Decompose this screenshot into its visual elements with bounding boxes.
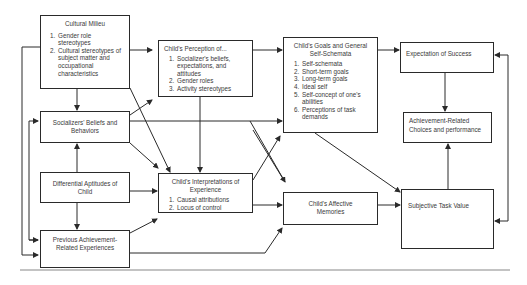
list-item: Short-term goals — [301, 68, 372, 76]
interpretations-list: Causal attributions Locus of control — [164, 196, 247, 211]
list-item: Self-concept of one's abilities — [301, 91, 372, 106]
cultural-milieu-list: Gender role stereotypes Cultural stereot… — [45, 32, 125, 78]
list-item: Activity stereotypes — [176, 85, 247, 93]
box-achievement-choices: Achievement-Related Choices and performa… — [403, 112, 492, 143]
box-previous-achievement: Previous Achievement-Related Experiences — [40, 230, 130, 268]
goals-title: Child's Goals and General Self-Schemata — [289, 42, 372, 57]
expectation-title: Expectation of Success — [406, 50, 488, 58]
box-differential-aptitudes: Differential Aptitudes of Child — [40, 172, 130, 203]
perception-title: Child's Perception of... — [164, 45, 247, 53]
differential-title: Differential Aptitudes of Child — [49, 180, 121, 195]
goals-list: Self-schemata Short-term goals Long-term… — [289, 60, 372, 121]
box-socializers-beliefs: Socializers' Beliefs and Behaviors — [40, 111, 130, 143]
box-childs-goals: Child's Goals and General Self-Schemata … — [283, 37, 378, 133]
box-cultural-milieu: Cultural Milieu Gender role stereotypes … — [40, 15, 130, 89]
box-affective-memories: Child's Affective Memories — [283, 192, 378, 225]
box-expectation-of-success: Expectation of Success — [400, 42, 494, 73]
list-item: Gender role stereotypes — [57, 32, 125, 47]
achievement-title: Achievement-Related Choices and performa… — [409, 116, 486, 134]
list-item: Cultural stereotypes of subject matter a… — [57, 47, 125, 77]
socializers-title: Socializers' Beliefs and Behaviors — [45, 119, 125, 134]
task-value-title: Subjective Task Value — [408, 202, 487, 210]
list-item: Self-schemata — [301, 60, 372, 68]
interpretations-title: Child's Interpretations of Experience — [164, 178, 247, 193]
list-item: Gender roles — [176, 77, 247, 85]
perception-list: Socializer's beliefs, expectations, and … — [164, 55, 247, 93]
list-item: Ideal self — [301, 83, 372, 91]
previous-title: Previous Achievement-Related Experiences — [49, 236, 121, 251]
list-item: Socializer's beliefs, expectations, and … — [176, 55, 247, 78]
list-item: Locus of control — [176, 204, 247, 212]
expectancy-value-model-diagram: Cultural Milieu Gender role stereotypes … — [0, 0, 527, 285]
list-item: Causal attributions — [176, 196, 247, 204]
cultural-milieu-title: Cultural Milieu — [45, 20, 125, 28]
box-childs-perception: Child's Perception of... Socializer's be… — [158, 40, 253, 97]
list-item: Long-term goals — [301, 75, 372, 83]
list-item: Perceptions of task demands — [301, 106, 372, 121]
affective-title: Child's Affective Memories — [294, 200, 367, 215]
box-childs-interpretations: Child's Interpretations of Experience Ca… — [158, 173, 253, 213]
box-subjective-task-value: Subjective Task Value — [401, 189, 494, 249]
